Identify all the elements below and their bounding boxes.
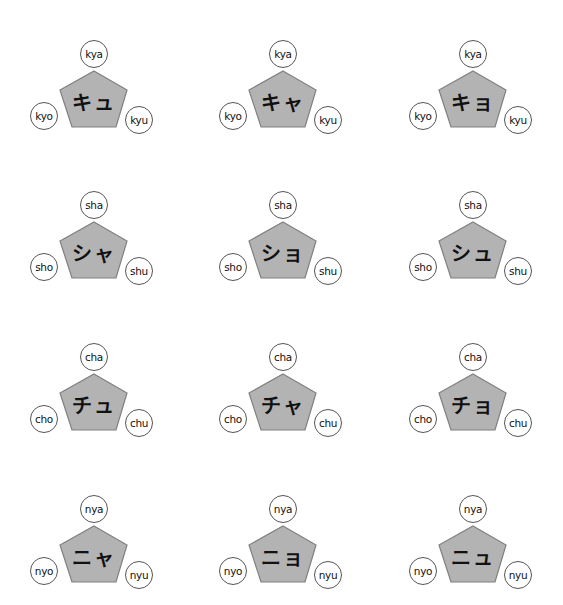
right-romaji-bubble: kyu — [314, 106, 342, 134]
left-romaji-bubble: nyo — [30, 557, 58, 585]
left-romaji-bubble: nyo — [219, 557, 247, 585]
left-romaji-bubble: cho — [30, 405, 58, 433]
top-romaji-bubble: kya — [269, 40, 297, 68]
top-romaji-bubble: cha — [269, 343, 297, 371]
right-romaji-bubble: shu — [125, 257, 153, 285]
left-romaji-bubble: cho — [219, 405, 247, 433]
top-romaji-bubble: cha — [80, 343, 108, 371]
kana-label: チュ — [60, 390, 127, 419]
kana-label: シュ — [439, 238, 506, 267]
kana-label: ショ — [249, 238, 316, 267]
kana-label: ニャ — [60, 542, 127, 571]
left-romaji-bubble: kyo — [219, 102, 247, 130]
yoon-cell-sh-3: シュ sha sho shu — [403, 188, 543, 298]
right-romaji-bubble: chu — [125, 409, 153, 437]
top-romaji-bubble: cha — [459, 343, 487, 371]
yoon-cell-ch-1: チュ cha cho chu — [24, 340, 164, 450]
left-romaji-bubble: cho — [409, 405, 437, 433]
yoon-cell-ny-3: ニュ nya nyo nyu — [403, 492, 543, 602]
kana-label: キャ — [249, 87, 316, 116]
yoon-cell-sh-2: ショ sha sho shu — [213, 188, 353, 298]
top-romaji-bubble: sha — [269, 191, 297, 219]
top-romaji-bubble: sha — [80, 191, 108, 219]
kana-label: チョ — [439, 390, 506, 419]
kana-label: ニョ — [249, 542, 316, 571]
left-romaji-bubble: sho — [409, 253, 437, 281]
right-romaji-bubble: chu — [314, 409, 342, 437]
right-romaji-bubble: chu — [504, 409, 532, 437]
kana-label: ニュ — [439, 542, 506, 571]
left-romaji-bubble: kyo — [409, 102, 437, 130]
yoon-cell-ch-2: チャ cha cho chu — [213, 340, 353, 450]
top-romaji-bubble: kya — [80, 40, 108, 68]
right-romaji-bubble: shu — [314, 257, 342, 285]
left-romaji-bubble: kyo — [30, 102, 58, 130]
kana-label: シャ — [60, 238, 127, 267]
top-romaji-bubble: sha — [459, 191, 487, 219]
right-romaji-bubble: kyu — [504, 106, 532, 134]
right-romaji-bubble: nyu — [314, 561, 342, 589]
right-romaji-bubble: shu — [504, 257, 532, 285]
yoon-cell-sh-1: シャ sha sho shu — [24, 188, 164, 298]
yoon-cell-ny-1: ニャ nya nyo nyu — [24, 492, 164, 602]
kana-label: チャ — [249, 390, 316, 419]
right-romaji-bubble: kyu — [125, 106, 153, 134]
yoon-cell-ky-2: キャ kya kyo kyu — [213, 37, 353, 147]
yoon-diagram-grid: キュ kya kyo kyu キャ kya kyo kyu キョ kya kyo… — [0, 0, 563, 605]
yoon-cell-ky-1: キュ kya kyo kyu — [24, 37, 164, 147]
left-romaji-bubble: sho — [30, 253, 58, 281]
yoon-cell-ny-2: ニョ nya nyo nyu — [213, 492, 353, 602]
yoon-cell-ky-3: キョ kya kyo kyu — [403, 37, 543, 147]
left-romaji-bubble: sho — [219, 253, 247, 281]
left-romaji-bubble: nyo — [409, 557, 437, 585]
top-romaji-bubble: nya — [269, 495, 297, 523]
top-romaji-bubble: nya — [80, 495, 108, 523]
right-romaji-bubble: nyu — [504, 561, 532, 589]
top-romaji-bubble: nya — [459, 495, 487, 523]
kana-label: キョ — [439, 87, 506, 116]
right-romaji-bubble: nyu — [125, 561, 153, 589]
kana-label: キュ — [60, 87, 127, 116]
yoon-cell-ch-3: チョ cha cho chu — [403, 340, 543, 450]
top-romaji-bubble: kya — [459, 40, 487, 68]
